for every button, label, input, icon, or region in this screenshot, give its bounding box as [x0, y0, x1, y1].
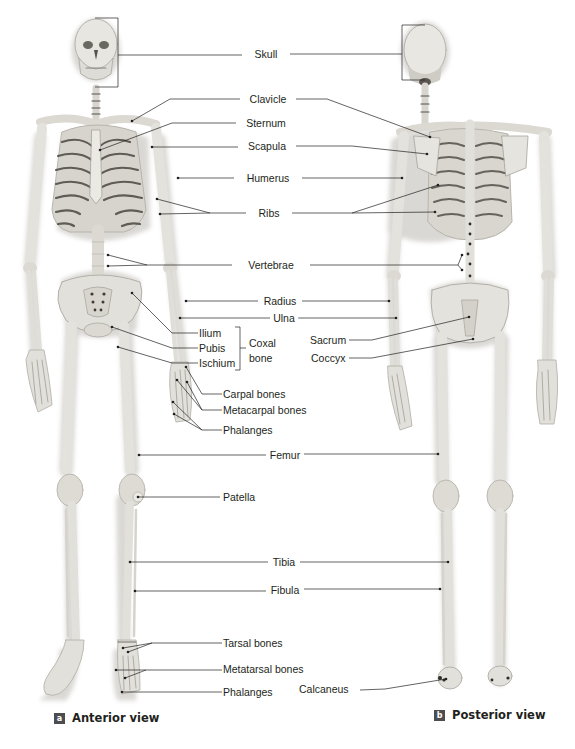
label-tibia: Tibia [270, 556, 298, 568]
label-femur: Femur [267, 449, 303, 461]
skeleton-diagram: Skull Clavicle Sternum Scapula Humerus R… [0, 0, 575, 749]
label-calcaneus: Calcaneus [296, 683, 352, 695]
panel-badge-a: a [54, 713, 65, 724]
label-sternum: Sternum [243, 117, 289, 129]
label-tarsal-bones: Tarsal bones [222, 637, 286, 649]
caption-posterior-view: b Posterior view [434, 708, 546, 722]
label-ulna: Ulna [270, 312, 298, 324]
skeleton-illustration [0, 0, 575, 749]
label-ischium: Ischium [198, 357, 238, 369]
label-ilium: Ilium [198, 327, 224, 339]
label-ribs: Ribs [255, 207, 282, 219]
label-metacarpal-bones: Metacarpal bones [222, 404, 309, 416]
caption-anterior-view: a Anterior view [54, 711, 159, 725]
label-vertebrae: Vertebrae [245, 259, 297, 271]
label-skull: Skull [252, 48, 281, 60]
label-metatarsal-bones: Metatarsal bones [222, 663, 307, 675]
label-patella: Patella [222, 491, 258, 503]
label-coccyx: Coccyx [308, 352, 348, 364]
label-coxal-bone-line2: bone [248, 352, 275, 364]
label-coxal-bone-line1: Coxal [248, 337, 279, 349]
label-foot-phalanges: Phalanges [222, 686, 276, 698]
panel-badge-b: b [434, 710, 445, 721]
label-carpal-bones: Carpal bones [222, 388, 288, 400]
label-clavicle: Clavicle [247, 93, 290, 105]
label-scapula: Scapula [245, 140, 289, 152]
label-sacrum: Sacrum [307, 334, 349, 346]
label-pubis: Pubis [198, 342, 228, 354]
label-fibula: Fibula [268, 584, 303, 596]
label-radius: Radius [261, 295, 300, 307]
label-hand-phalanges: Phalanges [222, 424, 276, 436]
caption-anterior-title: Anterior view [72, 711, 159, 725]
anterior-skeleton [23, 19, 192, 700]
label-humerus: Humerus [244, 172, 293, 184]
caption-posterior-title: Posterior view [452, 708, 546, 722]
